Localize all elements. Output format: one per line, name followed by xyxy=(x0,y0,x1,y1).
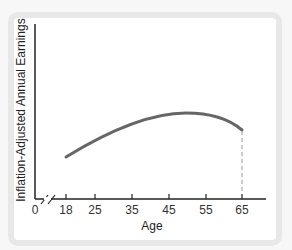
earnings-curve xyxy=(66,113,242,157)
earnings-chart: 0 18 25 35 45 55 65 Age Inflation-Adjust… xyxy=(0,0,292,250)
x-axis-label: Age xyxy=(141,219,163,233)
x-tick-label: 45 xyxy=(162,203,176,217)
x-tick-label: 35 xyxy=(125,203,139,217)
x-tick-label: 55 xyxy=(199,203,213,217)
y-axis-label: Inflation-Adjusted Annual Earnings xyxy=(14,18,28,201)
x-tick-label: 65 xyxy=(235,203,249,217)
x-tick-label: 25 xyxy=(88,203,102,217)
x-tick-label: 0 xyxy=(32,203,39,217)
x-tick-label: 18 xyxy=(59,203,73,217)
